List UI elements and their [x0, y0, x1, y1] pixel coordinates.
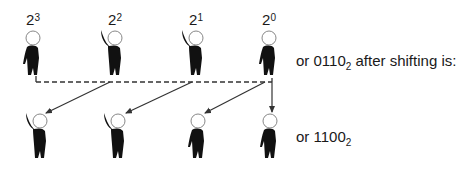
top-person-2-2 [101, 30, 122, 75]
arrow-2-0-to-2-1 [205, 82, 265, 113]
bottom-person-2-1 [188, 114, 205, 158]
diagram-graphic [0, 0, 470, 177]
top-person-2-0 [259, 31, 276, 75]
dashed-bus-line [36, 76, 272, 82]
label-2-0: 20 [262, 12, 276, 27]
top-person-2-1 [182, 30, 203, 75]
bottom-person-2-0 [260, 114, 277, 158]
bottom-caption: or 11002 [296, 128, 351, 147]
shift-diagram: 23 22 21 20 or 01102 after shifting is: … [0, 0, 470, 177]
arrow-2-2-to-2-3 [46, 82, 110, 113]
bottom-person-2-2 [104, 113, 125, 158]
arrow-2-1-to-2-2 [126, 82, 192, 113]
label-2-1: 21 [189, 12, 203, 27]
shift-arrows [46, 82, 272, 113]
top-caption: or 01102 after shifting is: [296, 52, 456, 71]
bottom-person-2-3 [26, 113, 47, 158]
label-2-2: 22 [108, 12, 122, 27]
top-person-2-3 [23, 31, 40, 75]
label-2-3: 23 [26, 12, 40, 27]
